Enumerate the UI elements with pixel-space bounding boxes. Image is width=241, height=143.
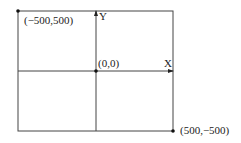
origin-label: (0,0)	[98, 58, 119, 69]
bottom-right-coordinate-label: (500,−500)	[180, 125, 229, 136]
y-axis-label: Y	[99, 11, 107, 22]
top-left-point	[16, 9, 20, 13]
origin-point	[94, 69, 98, 73]
top-left-coordinate-label: (−500,500)	[24, 15, 73, 26]
x-axis-label: X	[164, 58, 172, 69]
bottom-right-point	[171, 129, 175, 133]
